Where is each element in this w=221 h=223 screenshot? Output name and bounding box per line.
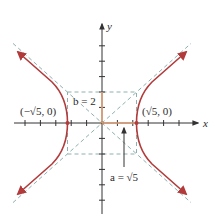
x-axis-label: x	[202, 117, 208, 129]
right-branch-lower	[137, 123, 187, 194]
b-label: b = 2	[73, 95, 96, 107]
vertex-left	[66, 121, 70, 125]
vertex-left-label: (−√5, 0)	[20, 105, 56, 118]
axes	[14, 24, 198, 214]
left-branch-lower	[18, 123, 68, 194]
y-axis-label: y	[106, 20, 112, 32]
vertex-right	[135, 121, 139, 125]
hyperbola-diagram: y x (−√5, 0) (√5, 0) b = 2 a = √5	[0, 0, 221, 223]
a-label: a = √5	[110, 171, 139, 183]
vertex-right-label: (√5, 0)	[142, 105, 172, 118]
